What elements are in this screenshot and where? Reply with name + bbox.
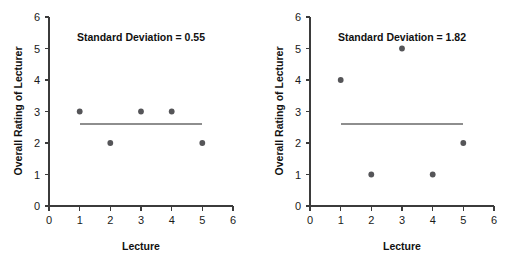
x-tick-label-0: 0	[307, 214, 313, 226]
y-tick-label-5: 5	[34, 43, 40, 55]
y-tick-label-4: 4	[34, 74, 40, 86]
x-ticks-right	[310, 206, 494, 211]
chart-panel-left: 0 1 2 3 4 5 6 0 1 2 3	[0, 0, 260, 264]
y-tick-label-2: 2	[295, 137, 301, 149]
figure-two-panel-scatter: 0 1 2 3 4 5 6 0 1 2 3	[0, 0, 520, 264]
plot-frame-right	[310, 17, 494, 206]
y-tick-label-6: 6	[295, 11, 301, 23]
standard-deviation-annotation: Standard Deviation = 0.55	[77, 31, 205, 43]
y-tick-label-4: 4	[295, 74, 301, 86]
data-point	[107, 140, 113, 146]
y-tick-label-1: 1	[34, 169, 40, 181]
x-axis-title: Lecture	[122, 240, 160, 252]
data-points-left	[77, 109, 205, 146]
y-ticks-right	[306, 17, 310, 206]
data-points-right	[338, 46, 466, 178]
data-point	[460, 140, 466, 146]
y-tick-label-3: 3	[34, 106, 40, 118]
x-tick-label-6: 6	[230, 214, 236, 226]
y-tick-label-3: 3	[295, 106, 301, 118]
x-tick-label-0: 0	[46, 214, 52, 226]
y-axis-title: Overall Rating of Lecturer	[273, 47, 285, 176]
data-point	[77, 109, 83, 115]
y-tick-label-6: 6	[34, 11, 40, 23]
x-tick-label-5: 5	[460, 214, 466, 226]
chart-svg-right: 0 1 2 3 4 5 6 0 1 2 3	[260, 0, 520, 264]
x-tick-label-4: 4	[169, 214, 175, 226]
data-point	[399, 46, 405, 52]
x-tick-label-4: 4	[430, 214, 436, 226]
x-tick-label-6: 6	[491, 214, 497, 226]
x-tick-label-3: 3	[399, 214, 405, 226]
y-tick-label-1: 1	[295, 169, 301, 181]
x-tick-label-3: 3	[138, 214, 144, 226]
x-tick-label-1: 1	[338, 214, 344, 226]
x-tick-label-5: 5	[199, 214, 205, 226]
x-tick-label-2: 2	[368, 214, 374, 226]
standard-deviation-annotation: Standard Deviation = 1.82	[338, 31, 466, 43]
x-tick-labels-left: 0 1 2 3 4 5 6	[46, 214, 236, 226]
x-tick-label-1: 1	[77, 214, 83, 226]
y-tick-labels-right: 0 1 2 3 4 5 6	[295, 11, 301, 212]
data-point	[199, 140, 205, 146]
data-point	[368, 172, 374, 178]
data-point	[138, 109, 144, 115]
y-tick-labels-left: 0 1 2 3 4 5 6	[34, 11, 40, 212]
x-tick-labels-right: 0 1 2 3 4 5 6	[307, 214, 497, 226]
data-point	[338, 77, 344, 83]
y-tick-label-5: 5	[295, 43, 301, 55]
x-tick-label-2: 2	[107, 214, 113, 226]
data-point	[169, 109, 175, 115]
x-axis-title: Lecture	[383, 240, 421, 252]
y-axis-title: Overall Rating of Lecturer	[12, 47, 24, 176]
chart-panel-right: 0 1 2 3 4 5 6 0 1 2 3	[260, 0, 520, 264]
y-tick-label-2: 2	[34, 137, 40, 149]
x-ticks-left	[49, 206, 233, 211]
chart-svg-left: 0 1 2 3 4 5 6 0 1 2 3	[0, 0, 260, 264]
y-tick-label-0: 0	[295, 200, 301, 212]
data-point	[430, 172, 436, 178]
y-tick-label-0: 0	[34, 200, 40, 212]
